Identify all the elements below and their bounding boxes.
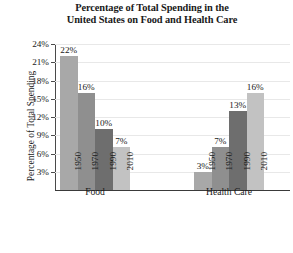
bar-value-label: 22%: [60, 45, 77, 55]
bar-value-label: 10%: [95, 118, 112, 128]
x-axis-year-label: 1970: [90, 152, 100, 170]
y-tick-label: 6%: [37, 149, 49, 159]
y-tick-mark: [51, 44, 55, 45]
y-tick-mark: [51, 172, 55, 173]
y-tick-mark: [51, 62, 55, 63]
y-tick-label: 24%: [32, 39, 49, 49]
x-axis-year-label: 1950: [207, 152, 217, 170]
y-tick-mark: [51, 117, 55, 118]
x-axis-year-label: 1970: [224, 152, 234, 170]
bar-chart-figure: Percentage of Total Spending in the Unit…: [0, 0, 293, 253]
bar-value-label: 7%: [115, 136, 127, 146]
bar: 16%: [247, 93, 265, 190]
x-axis-year-label: 2010: [259, 152, 269, 170]
x-axis-year-label: 1950: [73, 152, 83, 170]
gridline: [55, 44, 290, 45]
y-tick-label: 3%: [37, 167, 49, 177]
bar-value-label: 13%: [229, 100, 246, 110]
x-axis-year-label: 2010: [125, 152, 135, 170]
x-axis-group-label: Food: [85, 186, 105, 197]
x-axis-group-label: Health Care: [206, 186, 252, 197]
y-tick-label: 21%: [32, 57, 49, 67]
bar: 16%: [78, 93, 96, 190]
chart-title: Percentage of Total Spending in the Unit…: [28, 2, 276, 26]
bar-value-label: 16%: [78, 82, 95, 92]
y-tick-label: 15%: [32, 94, 49, 104]
y-tick-label: 9%: [37, 130, 49, 140]
y-tick-label: 12%: [32, 112, 49, 122]
y-tick-label: 18%: [32, 76, 49, 86]
chart-title-line-1: Percentage of Total Spending in the: [28, 2, 276, 14]
gridline: [55, 62, 290, 63]
y-tick-mark: [51, 135, 55, 136]
bar: 13%: [229, 111, 247, 190]
y-axis-title: Percentage of Total Spending: [26, 46, 36, 206]
y-tick-mark: [51, 154, 55, 155]
bar-value-label: 16%: [247, 82, 264, 92]
chart-title-line-2: United States on Food and Health Care: [28, 14, 276, 26]
y-tick-mark: [51, 81, 55, 82]
x-axis-year-label: 1990: [242, 152, 252, 170]
bar-value-label: 7%: [214, 136, 226, 146]
y-tick-mark: [51, 99, 55, 100]
x-axis-year-label: 1990: [108, 152, 118, 170]
